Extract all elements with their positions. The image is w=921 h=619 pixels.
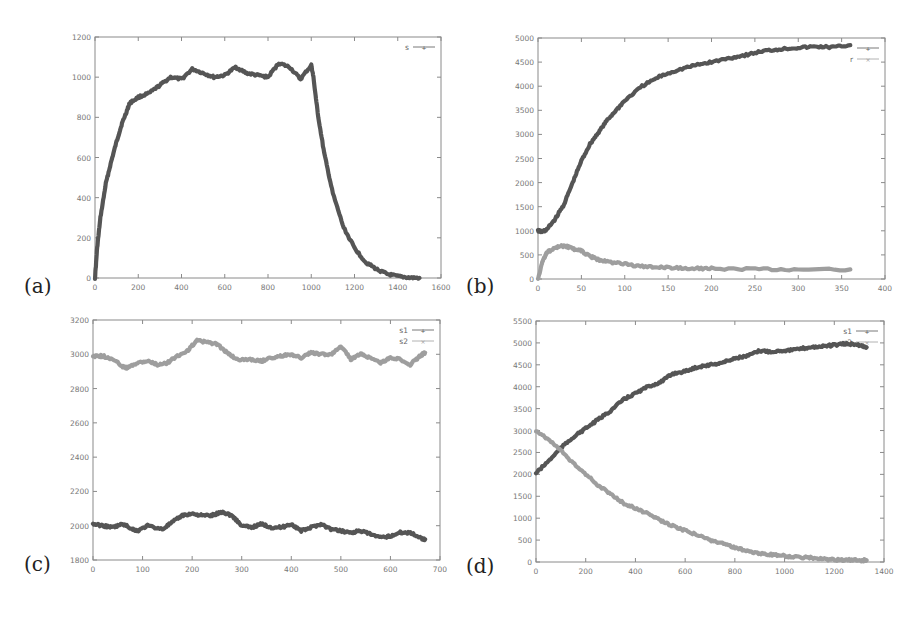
line-chart-d: 0200400600800100012001400050010001500200…: [0, 0, 921, 619]
y-tick-label: 1000: [513, 514, 532, 523]
y-tick-label: 3000: [513, 427, 532, 436]
plot-frame: [536, 321, 884, 562]
legend-label: s1: [843, 327, 852, 336]
y-tick-label: 5500: [513, 317, 532, 326]
x-tick-label: 1000: [775, 567, 794, 576]
x-tick-label: 600: [678, 567, 693, 576]
x-tick-label: 0: [534, 567, 539, 576]
series-line-s2: [536, 431, 867, 561]
y-tick-label: 5000: [513, 339, 532, 348]
svg-text:+: +: [864, 328, 869, 335]
y-tick-label: 0: [527, 558, 532, 567]
x-tick-label: 400: [628, 567, 643, 576]
y-tick-label: 3500: [513, 405, 532, 414]
y-tick-label: 2500: [513, 448, 532, 457]
x-tick-label: 1400: [874, 567, 893, 576]
series-line-s1: [536, 343, 867, 473]
y-tick-label: 4000: [513, 383, 532, 392]
x-tick-label: 800: [728, 567, 743, 576]
x-tick-label: 200: [579, 567, 594, 576]
y-tick-label: 2000: [513, 470, 532, 479]
x-tick-label: 1200: [825, 567, 844, 576]
y-tick-label: 1500: [513, 492, 532, 501]
svg-text:×: ×: [864, 339, 869, 346]
y-tick-label: 4500: [513, 361, 532, 370]
y-tick-label: 500: [518, 536, 533, 545]
